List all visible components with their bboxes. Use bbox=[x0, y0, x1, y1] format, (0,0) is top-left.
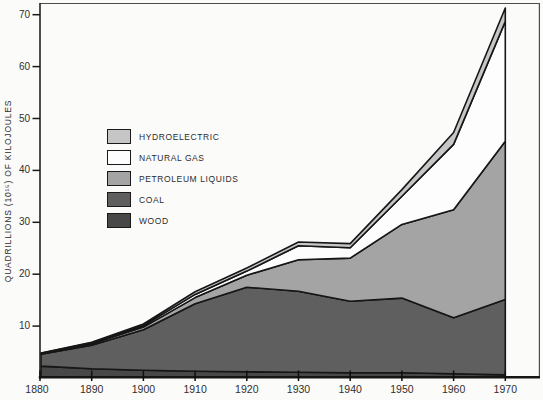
y-tick-label: 70 bbox=[4, 9, 30, 20]
energy-consumption-chart: QUADRILLIONS (10¹⁵) OF KILOJOULES 102030… bbox=[0, 0, 543, 400]
x-tick-label: 1960 bbox=[434, 383, 474, 395]
y-tick-label: 60 bbox=[4, 61, 30, 72]
x-tick-label: 1880 bbox=[17, 383, 57, 395]
x-tick-label: 1890 bbox=[72, 383, 112, 395]
x-tick-label: 1900 bbox=[123, 383, 163, 395]
x-tick-label: 1970 bbox=[485, 383, 525, 395]
y-tick-label: 40 bbox=[4, 164, 30, 175]
x-tick-label: 1930 bbox=[279, 383, 319, 395]
legend-item-natural-gas: NATURAL GAS bbox=[107, 149, 238, 166]
legend-label: HYDROELECTRIC bbox=[139, 132, 220, 142]
chart-plot-area bbox=[0, 0, 543, 400]
legend-item-wood: WOOD bbox=[107, 212, 238, 229]
legend-label: COAL bbox=[139, 195, 165, 205]
x-tick-label: 1950 bbox=[382, 383, 422, 395]
legend-item-coal: COAL bbox=[107, 191, 238, 208]
legend-swatch bbox=[107, 150, 131, 165]
y-tick-label: 20 bbox=[4, 268, 30, 279]
x-tick-label: 1940 bbox=[330, 383, 370, 395]
y-tick-label: 30 bbox=[4, 216, 30, 227]
legend-label: PETROLEUM LIQUIDS bbox=[139, 174, 238, 184]
legend: HYDROELECTRICNATURAL GASPETROLEUM LIQUID… bbox=[107, 128, 238, 233]
legend-swatch bbox=[107, 192, 131, 207]
legend-label: NATURAL GAS bbox=[139, 153, 205, 163]
legend-swatch bbox=[107, 213, 131, 228]
legend-label: WOOD bbox=[139, 216, 169, 226]
legend-item-petroleum-liquids: PETROLEUM LIQUIDS bbox=[107, 170, 238, 187]
y-tick-label: 10 bbox=[4, 320, 30, 331]
x-tick-label: 1920 bbox=[227, 383, 267, 395]
legend-swatch bbox=[107, 171, 131, 186]
y-tick-label: 50 bbox=[4, 113, 30, 124]
legend-item-hydroelectric: HYDROELECTRIC bbox=[107, 128, 238, 145]
legend-swatch bbox=[107, 129, 131, 144]
x-tick-label: 1910 bbox=[175, 383, 215, 395]
